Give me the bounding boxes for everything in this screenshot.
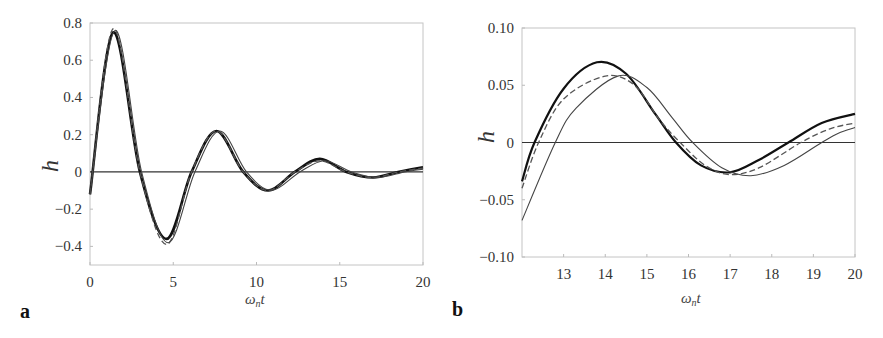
panel-label-a: a [20, 300, 30, 322]
x-tick-label: 19 [806, 266, 821, 282]
series-line-solid-thin [522, 75, 855, 220]
y-tick-label: 0.6 [63, 52, 82, 68]
x-tick-label: 18 [764, 266, 779, 282]
series-line-solid-thick [90, 32, 423, 239]
figure: 0.80.60.40.20−0.2−0.4 05101520 h ωnt a 0… [0, 0, 883, 338]
x-axis-label-a: ωnt [245, 291, 266, 309]
y-tick-label: 0.10 [488, 20, 514, 36]
y-tick-label: −0.4 [55, 238, 83, 254]
x-tick-label: 17 [723, 266, 739, 282]
series-line-solid-thin [90, 30, 423, 242]
y-axis-label-a: h [37, 160, 63, 172]
series-line-dashed [90, 29, 423, 245]
y-tick-label: 0.8 [63, 15, 82, 31]
y-tick-labels-a: 0.80.60.40.20−0.2−0.4 [55, 15, 93, 254]
x-tick-labels-a: 05101520 [86, 262, 430, 290]
x-tick-labels-b: 1314151617181920 [556, 254, 862, 282]
x-tick-label: 15 [639, 266, 654, 282]
plot-frame-a [90, 23, 423, 265]
x-tick-label: 14 [598, 266, 614, 282]
panel-label-b: b [452, 298, 463, 320]
series-group-b [522, 62, 855, 221]
x-tick-label: 5 [170, 274, 178, 290]
y-axis-label-b: h [473, 131, 499, 143]
x-tick-label: 20 [416, 274, 431, 290]
y-tick-label: −0.10 [479, 249, 514, 265]
x-tick-label: 0 [86, 274, 94, 290]
y-tick-label: 0.05 [488, 77, 514, 93]
y-tick-label: 0.2 [63, 127, 82, 143]
x-tick-label: 10 [249, 274, 264, 290]
y-tick-label: −0.05 [479, 192, 514, 208]
chart-panel-a: 0.80.60.40.20−0.2−0.4 05101520 h ωnt a [20, 15, 431, 322]
x-tick-label: 16 [681, 266, 697, 282]
x-tick-label: 15 [332, 274, 347, 290]
x-tick-label: 20 [848, 266, 863, 282]
y-tick-label: 0 [75, 164, 83, 180]
y-tick-label: 0 [507, 135, 515, 151]
chart-panel-b: 0.100.050−0.05−0.10 1314151617181920 h ω… [452, 20, 863, 320]
y-tick-label: 0.4 [63, 89, 82, 105]
series-line-solid-thick [522, 62, 855, 182]
y-tick-label: −0.2 [55, 201, 82, 217]
series-group-a [90, 29, 423, 245]
x-tick-label: 13 [556, 266, 571, 282]
x-axis-label-b: ωnt [681, 290, 702, 308]
